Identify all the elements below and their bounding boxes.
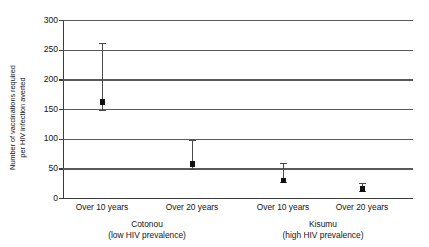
error-bar-cap-upper — [189, 140, 197, 141]
y-tick-label: 100 — [28, 134, 58, 143]
gridline — [63, 139, 413, 140]
gridline — [63, 198, 413, 199]
y-axis-title: Number of vaccinations required per HIV … — [8, 28, 27, 208]
y-tick-mark — [59, 50, 63, 51]
group-label-qualifier: (high HIV prevalence) — [218, 230, 428, 241]
data-point-marker — [360, 186, 365, 191]
x-tick-label: Over 20 years — [302, 202, 422, 212]
data-point-marker — [100, 99, 105, 104]
error-bar-cap-upper — [99, 43, 107, 44]
y-tick-label: 200 — [28, 75, 58, 84]
y-tick-mark — [59, 79, 63, 80]
y-tick-label: 0 — [28, 194, 58, 203]
y-tick-label: 250 — [28, 45, 58, 54]
gridline — [63, 109, 413, 110]
gridline — [63, 79, 413, 80]
group-label: Kisumu(high HIV prevalence) — [218, 219, 428, 242]
error-bar-point — [359, 183, 360, 192]
error-bar-point — [99, 43, 100, 111]
y-axis-title-line-1: Number of vaccinations required — [8, 28, 18, 208]
plot-area — [63, 20, 413, 198]
y-tick-label: 50 — [28, 164, 58, 173]
y-tick-mark — [59, 139, 63, 140]
y-tick-label: 300 — [28, 16, 58, 25]
error-bar-cap-lower — [99, 110, 107, 111]
data-point-marker — [190, 161, 195, 166]
group-label-name: Kisumu — [218, 219, 428, 230]
y-axis-title-line-2: per HIV infection averted — [18, 28, 28, 208]
y-tick-mark — [59, 168, 63, 169]
gridline — [63, 50, 413, 51]
error-bar-cap-upper — [280, 163, 288, 164]
gridline — [63, 20, 413, 21]
y-tick-mark — [59, 198, 63, 199]
error-bar-cap-lower — [189, 169, 197, 170]
y-tick-mark — [59, 20, 63, 21]
error-bar-point — [280, 163, 281, 183]
gridline — [63, 168, 413, 169]
error-bar-cap-upper — [359, 183, 367, 184]
chart-container: Number of vaccinations required per HIV … — [0, 0, 429, 247]
y-tick-label: 150 — [28, 105, 58, 114]
y-tick-mark — [59, 109, 63, 110]
data-point-marker — [281, 178, 286, 183]
error-bar-point — [189, 140, 190, 170]
